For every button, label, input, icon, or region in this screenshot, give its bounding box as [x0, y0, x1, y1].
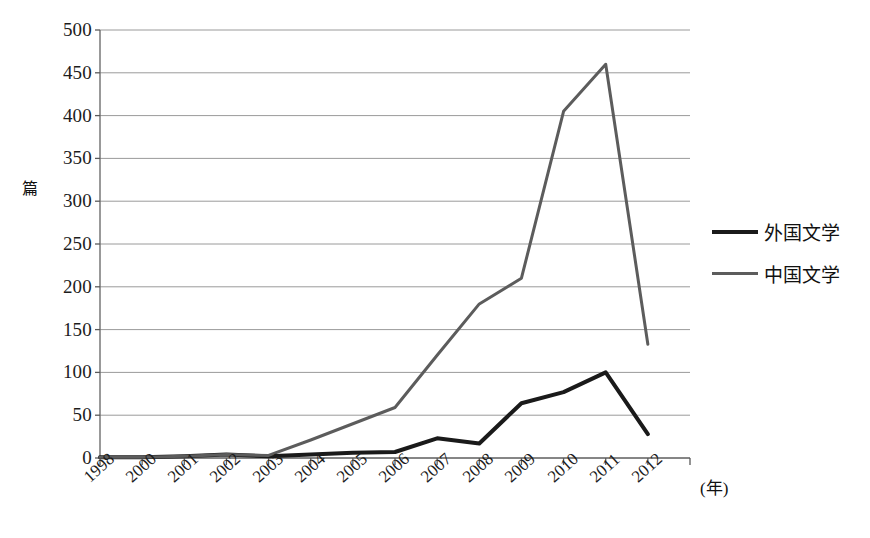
x-axis-unit-label: (年): [700, 474, 728, 499]
legend-label: 外国文学: [764, 218, 840, 245]
legend-label: 中国文学: [764, 260, 840, 287]
line-chart: 篇 050100150200250300350400450500 1998200…: [0, 0, 870, 538]
legend-swatch: [712, 272, 758, 275]
series-line-2: [100, 64, 648, 457]
legend-swatch: [712, 230, 758, 234]
